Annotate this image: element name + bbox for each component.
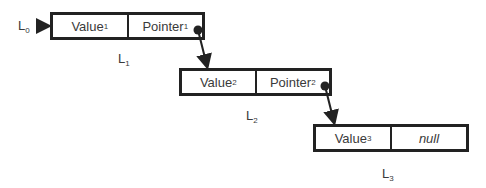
list-node-2: Value2 Pointer2 [179,68,332,96]
value-cell-2: Value2 [182,71,255,93]
pointer-cell-2: Pointer2 [255,71,330,93]
pointer-cell-1: Pointer1 [127,15,203,37]
null-cell: null [390,127,466,149]
head-label: L0 [18,18,30,35]
node-label-3: L3 [382,166,394,183]
value-cell-3: Value3 [316,127,390,149]
value-cell-1: Value1 [53,15,127,37]
list-node-1: Value1 Pointer1 [50,12,205,40]
node-label-2: L2 [246,108,258,125]
node-label-1: L1 [118,51,130,68]
list-node-3: Value3 null [313,124,469,152]
